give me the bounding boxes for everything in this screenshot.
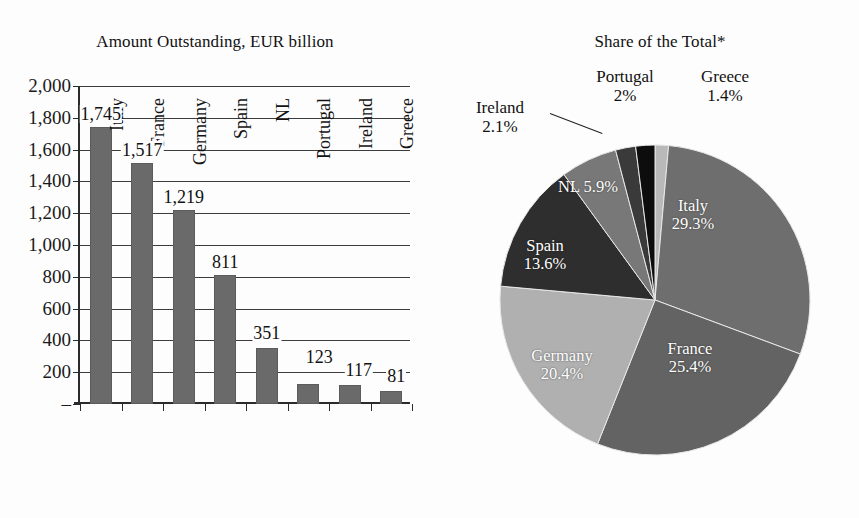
- y-tick-label: 1,800: [28, 108, 71, 127]
- bar-value-label: 1,745: [80, 105, 123, 123]
- pie-chart-panel: Share of the Total* Italy 29.3% France 2…: [440, 0, 859, 518]
- bar: [256, 348, 278, 404]
- gridline: [80, 245, 410, 246]
- bar-value-label: 351: [252, 324, 281, 342]
- pie-label-portugal-name: Portugal: [596, 67, 654, 86]
- gridline: [80, 213, 410, 214]
- pie-label-germany: Germany 20.4%: [531, 347, 592, 384]
- y-tick-mark: [73, 340, 80, 341]
- y-tick-mark: [73, 404, 80, 405]
- bar: [90, 127, 112, 404]
- y-tick-mark: [73, 245, 80, 246]
- x-tick-mark: [205, 404, 206, 411]
- y-tick-mark: [73, 150, 80, 151]
- x-tick-mark: [246, 404, 247, 411]
- y-tick-mark: [73, 372, 80, 373]
- bar-value-label: 1,219: [163, 188, 206, 206]
- bar: [214, 275, 236, 404]
- gridline: [80, 181, 410, 182]
- bar: [339, 385, 361, 404]
- y-tick-mark: [73, 86, 80, 87]
- pie-label-ireland-name: Ireland: [476, 98, 524, 117]
- y-tick-label: 200: [43, 362, 72, 381]
- pie-label-ireland: Ireland 2.1%: [476, 98, 524, 136]
- x-tick-mark: [122, 404, 123, 411]
- x-tick-mark: [412, 404, 413, 411]
- y-tick-mark: [73, 213, 80, 214]
- pie-label-portugal-pct: 2%: [596, 86, 654, 105]
- y-tick-label: 1,200: [28, 203, 71, 222]
- pie-label-france-pct: 25.4%: [668, 358, 713, 376]
- x-tick-mark: [163, 404, 164, 411]
- y-tick-mark: [73, 277, 80, 278]
- bar: [380, 391, 402, 404]
- gridline: [80, 86, 410, 87]
- pie-label-greece-name: Greece: [701, 67, 749, 86]
- bar: [131, 163, 153, 404]
- gridline: [80, 277, 410, 278]
- pie-label-spain: Spain 13.6%: [524, 237, 567, 274]
- x-category-label: Spain: [232, 98, 250, 139]
- x-category-label: NL: [274, 98, 292, 122]
- pie-label-ireland-pct: 2.1%: [476, 117, 524, 136]
- pie-label-italy: Italy 29.3%: [672, 197, 715, 234]
- y-tick-mark: [73, 309, 80, 310]
- y-tick-label: 800: [43, 267, 72, 286]
- pie-label-portugal: Portugal 2%: [596, 67, 654, 105]
- x-category-label: Ireland: [357, 98, 375, 149]
- y-tick-label: 1,600: [28, 140, 71, 159]
- y-tick-label: 600: [43, 299, 72, 318]
- pie-label-germany-pct: 20.4%: [531, 365, 592, 383]
- x-tick-mark: [80, 404, 81, 411]
- figure-canvas: Amount Outstanding, EUR billion 2,0001,8…: [0, 0, 859, 518]
- y-tick-label: 2,000: [28, 76, 71, 95]
- x-category-label: Germany: [191, 98, 209, 165]
- y-tick-label: 1,000: [28, 235, 71, 254]
- x-tick-mark: [329, 404, 330, 411]
- pie-label-spain-name: Spain: [524, 237, 567, 255]
- pie-label-germany-name: Germany: [531, 347, 592, 365]
- x-category-label: Greece: [398, 98, 416, 149]
- y-tick-label: –: [62, 394, 72, 413]
- pie-label-greece: Greece 1.4%: [701, 67, 749, 105]
- pie-label-nl-text: NL 5.9%: [558, 178, 618, 196]
- pie-label-italy-name: Italy: [672, 197, 715, 215]
- gridline: [80, 340, 410, 341]
- bar-value-label: 123: [305, 348, 334, 366]
- bar: [297, 384, 319, 404]
- x-tick-mark: [288, 404, 289, 411]
- y-tick-label: 1,400: [28, 172, 71, 191]
- gridline: [80, 309, 410, 310]
- pie-label-france: France 25.4%: [668, 340, 713, 377]
- x-tick-mark: [371, 404, 372, 411]
- y-tick-label: 400: [43, 331, 72, 350]
- bar-value-label: 1,517: [121, 141, 164, 159]
- pie-label-nl: NL 5.9%: [558, 178, 618, 196]
- pie-label-italy-pct: 29.3%: [672, 215, 715, 233]
- bar-value-label: 811: [211, 253, 239, 271]
- bar-chart-title: Amount Outstanding, EUR billion: [0, 32, 430, 52]
- bar-value-label: 117: [345, 361, 373, 379]
- pie-label-spain-pct: 13.6%: [524, 255, 567, 273]
- bar: [173, 210, 195, 404]
- bar-chart-plot-area: 2,0001,8001,6001,4001,2001,0008006004002…: [78, 86, 410, 404]
- pie-label-greece-pct: 1.4%: [701, 86, 749, 105]
- x-category-label: Portugal: [315, 98, 333, 159]
- bar-chart-panel: Amount Outstanding, EUR billion 2,0001,8…: [0, 0, 440, 518]
- pie-label-france-name: France: [668, 340, 713, 358]
- bar-value-label: 81: [386, 367, 406, 385]
- y-tick-mark: [73, 181, 80, 182]
